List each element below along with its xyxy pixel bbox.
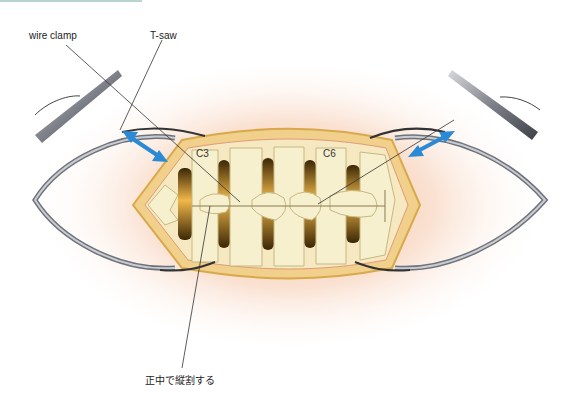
- label-c6: C6: [323, 148, 336, 159]
- label-wire-clamp: wire clamp: [29, 30, 77, 41]
- label-c3: C3: [196, 148, 209, 159]
- label-t-saw: T-saw: [150, 30, 177, 41]
- surgical-illustration: [0, 0, 566, 405]
- label-midline-split: 正中で縦割する: [145, 372, 215, 387]
